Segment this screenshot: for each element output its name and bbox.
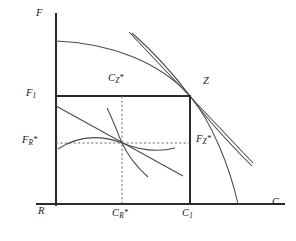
tick-label-f1: F1 — [26, 88, 36, 99]
curve-indifference-at-z — [132, 33, 252, 166]
axis-label-origin-r: R — [38, 206, 44, 217]
axis-label-c: C — [272, 197, 279, 208]
tick-label-fr-base: F — [22, 134, 28, 145]
economics-figure: F C R F1 FR* FZ* CZ* CR* C1 Z — [0, 0, 296, 241]
tick-label-fr-star-glyph: * — [33, 134, 38, 144]
tick-label-cz-sub: Z — [115, 76, 119, 85]
tick-label-f1-sub: 1 — [33, 91, 37, 100]
point-label-z: Z — [203, 76, 209, 87]
tick-label-cr-base: C — [112, 207, 119, 218]
tick-label-c1-base: C — [182, 207, 189, 218]
tick-label-cz-star: CZ* — [108, 73, 124, 84]
tick-label-f1-base: F — [26, 87, 32, 98]
tick-label-cz-base: C — [108, 72, 115, 83]
tick-label-c1: C1 — [182, 208, 193, 219]
tick-label-fz-star-glyph: * — [207, 133, 212, 143]
figure-canvas — [0, 0, 296, 241]
tick-label-c1-sub: 1 — [189, 211, 193, 220]
tick-label-fr-star: FR* — [22, 135, 37, 146]
tick-label-fz-base: F — [196, 133, 202, 144]
tick-label-cr-star: CR* — [112, 208, 128, 219]
axis-label-f: F — [36, 8, 42, 19]
tick-label-cr-star-glyph: * — [124, 207, 129, 217]
tick-label-cz-star-glyph: * — [120, 72, 125, 82]
tick-label-fz-star: FZ* — [196, 134, 211, 145]
